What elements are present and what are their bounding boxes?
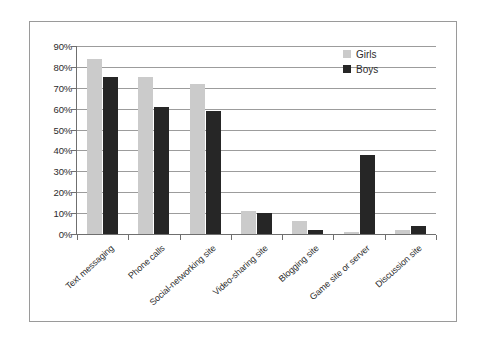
legend-item-girls[interactable]: Girls — [343, 47, 413, 61]
bar-boys[interactable] — [411, 226, 426, 234]
y-tick-mark — [71, 171, 76, 172]
bar-boys[interactable] — [206, 111, 221, 234]
bar-group — [87, 46, 118, 234]
y-tick-mark — [71, 213, 76, 214]
x-tick-mark — [436, 235, 437, 240]
legend-item-boys[interactable]: Boys — [343, 62, 413, 76]
y-tick-label-10: 10% — [54, 208, 72, 219]
y-tick-label-80: 80% — [54, 61, 72, 72]
y-tick-mark — [71, 130, 76, 131]
x-category-label: Text messaging — [63, 243, 115, 291]
bar-boys[interactable] — [308, 230, 323, 234]
x-axis-line — [76, 234, 436, 235]
bar-boys[interactable] — [360, 155, 375, 234]
y-tick-mark — [71, 46, 76, 47]
y-tick-mark — [71, 67, 76, 68]
bar-girls[interactable] — [190, 84, 205, 234]
y-tick-label-0: 0% — [59, 229, 72, 240]
bar-girls[interactable] — [138, 77, 153, 234]
chart-frame: 0%10%20%30%40%50%60%70%80%90% Text messa… — [29, 21, 457, 322]
x-category-label: Video-sharing site — [211, 243, 270, 297]
x-category-label: Discussion site — [373, 243, 423, 290]
x-category-label: Phone calls — [126, 243, 166, 281]
x-tick-mark — [385, 235, 386, 240]
y-tick-mark — [71, 150, 76, 151]
legend-label: Girls — [356, 49, 377, 60]
y-tick-mark — [71, 109, 76, 110]
x-category-label: Social-networking site — [148, 243, 218, 308]
x-tick-mark — [333, 235, 334, 240]
legend-swatch-icon — [343, 65, 351, 73]
y-tick-mark — [71, 88, 76, 89]
x-category-label: Game site or server — [308, 243, 372, 302]
bar-girls[interactable] — [87, 59, 102, 234]
x-tick-mark — [231, 235, 232, 240]
bar-boys[interactable] — [257, 213, 272, 234]
y-tick-mark — [71, 192, 76, 193]
x-tick-mark — [77, 235, 78, 240]
bar-group — [241, 46, 272, 234]
bar-girls[interactable] — [241, 211, 256, 234]
y-tick-label-40: 40% — [54, 145, 72, 156]
x-tick-mark — [180, 235, 181, 240]
legend-label: Boys — [356, 64, 378, 75]
y-tick-label-50: 50% — [54, 124, 72, 135]
y-tick-label-90: 90% — [54, 41, 72, 52]
bar-group — [138, 46, 169, 234]
bar-girls[interactable] — [344, 232, 359, 234]
y-tick-label-70: 70% — [54, 82, 72, 93]
bar-group — [190, 46, 221, 234]
chart-legend: GirlsBoys — [343, 47, 413, 77]
y-tick-label-20: 20% — [54, 187, 72, 198]
plot-wrapper: 0%10%20%30%40%50%60%70%80%90% Text messa… — [30, 22, 456, 321]
y-axis-tick-labels: 0%10%20%30%40%50%60%70%80%90% — [36, 46, 72, 234]
bar-boys[interactable] — [103, 77, 118, 234]
x-tick-mark — [282, 235, 283, 240]
legend-swatch-icon — [343, 50, 351, 58]
bar-girls[interactable] — [395, 230, 410, 234]
bar-boys[interactable] — [154, 107, 169, 234]
bar-group — [292, 46, 323, 234]
y-tick-label-30: 30% — [54, 166, 72, 177]
x-category-label: Blogging site — [277, 243, 321, 284]
y-tick-label-60: 60% — [54, 103, 72, 114]
x-tick-mark — [128, 235, 129, 240]
bar-girls[interactable] — [292, 221, 307, 234]
